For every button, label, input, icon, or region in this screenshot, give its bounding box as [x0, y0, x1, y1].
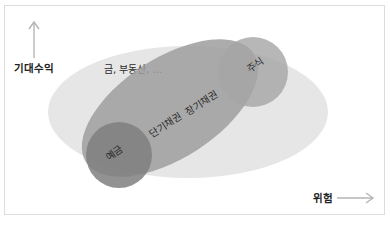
y-axis-label: 기대수익 [14, 62, 54, 74]
risk-return-diagram: 기대수익 금, 부동산, ... 단기채권 장기채권 예금 주식 위험 [0, 0, 390, 226]
arrow-up-icon [29, 22, 39, 58]
x-axis-label: 위험 [313, 192, 333, 204]
arrow-right-icon [337, 193, 373, 203]
